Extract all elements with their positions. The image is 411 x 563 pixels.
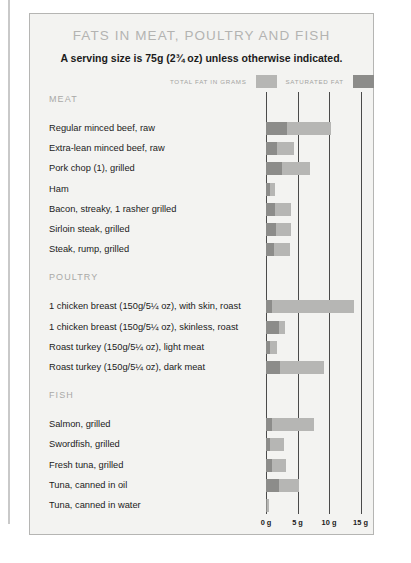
scan-edge-rule [8,0,10,524]
plot-area [266,92,375,514]
chart-legend: TOTAL FAT IN GRAMS SATURATED FAT [170,75,374,88]
legend-saturated-label: SATURATED FAT [286,78,344,85]
bar-row [266,479,299,492]
axis-tick-10g: 10 g [322,518,337,527]
chart-page: FATS IN MEAT, POULTRY AND FISH A serving… [0,0,411,563]
bar-segment-total [279,479,299,492]
row-label: 1 chicken breast (150g/5¼ oz), skinless,… [49,322,238,332]
bar-segment-total [270,341,277,354]
bar-segment-saturated [266,243,274,256]
bar-row [266,223,291,236]
bar-segment-total [272,459,286,472]
bar-segment-total [280,361,323,374]
bar-segment-saturated [266,203,275,216]
row-label: Ham [49,184,69,194]
bar-segment-saturated [266,162,282,175]
row-label: Pork chop (1), grilled [49,163,135,173]
bar-segment-saturated [266,361,280,374]
bar-segment-total [279,321,285,334]
section-header-fish: FISH [49,390,74,400]
row-label: Tuna, canned in water [49,500,141,510]
chart-panel: FATS IN MEAT, POULTRY AND FISH A serving… [29,13,374,535]
row-label: Sirloin steak, grilled [49,224,130,234]
row-label: 1 chicken breast (150g/5¼ oz), with skin… [49,301,241,311]
bar-segment-total [267,499,269,512]
bar-segment-total [275,203,290,216]
row-label: Swordfish, grilled [49,439,120,449]
legend-saturated-swatch [353,75,374,88]
bar-segment-saturated [266,321,279,334]
row-label: Roast turkey (150g/5¼ oz), light meat [49,342,204,352]
bar-row [266,341,277,354]
bar-segment-total [270,183,276,196]
row-label: Steak, rump, grilled [49,244,129,254]
bar-segment-total [274,243,290,256]
bar-segment-total [287,122,331,135]
row-label: Salmon, grilled [49,419,111,429]
row-label: Regular minced beef, raw [49,123,155,133]
row-label: Extra-lean minced beef, raw [49,143,165,153]
legend-total-label: TOTAL FAT IN GRAMS [170,78,247,85]
bar-row [266,438,284,451]
row-label: Fresh tuna, grilled [49,460,123,470]
section-header-meat: MEAT [49,94,78,104]
bar-segment-total [272,418,314,431]
bar-row [266,300,354,313]
row-label: Bacon, streaky, 1 rasher grilled [49,204,176,214]
row-label: Tuna, canned in oil [49,480,127,490]
bar-row [266,243,290,256]
bar-row [266,321,285,334]
axis-tick-15g: 15 g [353,518,368,527]
bar-segment-total [270,438,284,451]
bar-segment-saturated [266,223,276,236]
bar-segment-saturated [266,122,287,135]
serving-size-note: A serving size is 75g (2¾ oz) unless oth… [30,52,373,64]
gridline-15g [361,92,362,514]
axis-tick-5g: 5 g [292,518,303,527]
bar-row [266,499,269,512]
page-title: FATS IN MEAT, POULTRY AND FISH [30,28,373,43]
axis-tick-0g: 0 g [261,518,272,527]
bar-row [266,459,286,472]
row-label: Roast turkey (150g/5¼ oz), dark meat [49,362,205,372]
bar-segment-total [276,223,290,236]
bar-segment-total [282,162,310,175]
bar-row [266,418,314,431]
bar-row [266,361,324,374]
bar-row [266,203,291,216]
bar-row [266,142,294,155]
section-header-poultry: POULTRY [49,272,98,282]
bar-row [266,162,310,175]
bar-segment-total [277,142,293,155]
bar-segment-saturated [266,479,279,492]
bar-segment-total [272,300,354,313]
bar-row [266,122,331,135]
bar-segment-saturated [266,142,277,155]
bar-row [266,183,275,196]
legend-total-swatch [256,75,277,88]
